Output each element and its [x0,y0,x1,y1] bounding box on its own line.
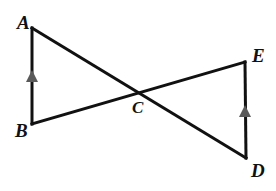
parallel-tick-AB-icon [26,70,38,82]
vertex-label-E: E [251,45,265,66]
vertex-label-D: D [250,160,265,181]
geometry-canvas: A B C D E [0,0,276,191]
vertex-label-C: C [132,98,144,117]
vertex-label-A: A [16,12,30,33]
vertex-label-B: B [14,120,28,141]
geometry-diagram: A B C D E [0,0,276,191]
parallel-tick-ED-icon [239,105,251,117]
